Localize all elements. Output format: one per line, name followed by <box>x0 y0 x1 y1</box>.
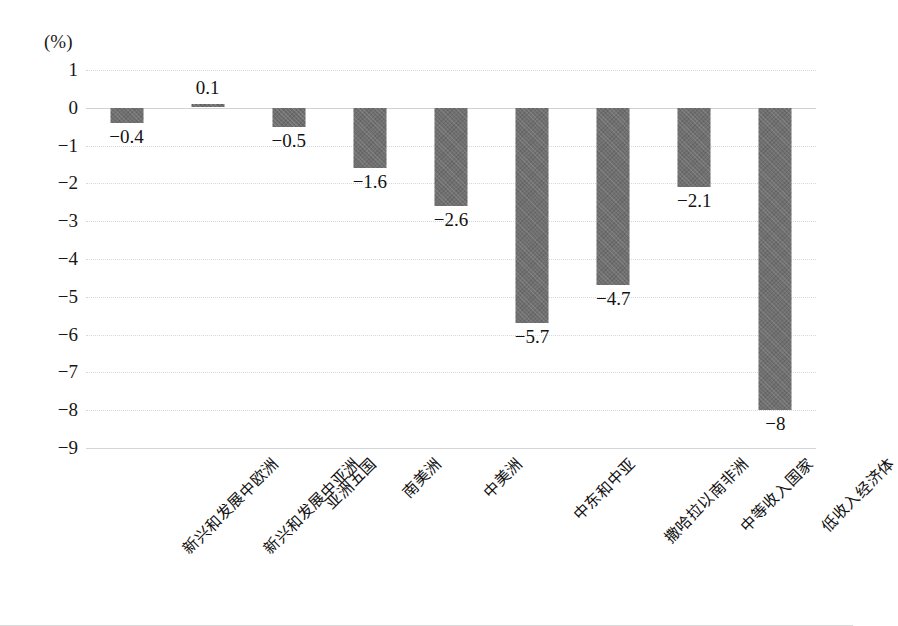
x-category-label: 南美洲 <box>396 452 445 501</box>
bar[interactable] <box>516 108 549 323</box>
bar-value-label: −5.7 <box>515 326 549 348</box>
bar-slot: −2.6 <box>410 70 491 448</box>
bar-slot: −1.6 <box>329 70 410 448</box>
y-axis-tick-labels: 10−1−2−3−4−5−6−7−8−9 <box>30 70 78 448</box>
bar[interactable] <box>353 108 386 168</box>
y-tick-label: −5 <box>32 286 78 308</box>
y-tick-label: −4 <box>32 248 78 270</box>
bar[interactable] <box>759 108 792 410</box>
bar-value-label: −2.6 <box>434 209 468 231</box>
bar-value-label: 0.1 <box>196 77 220 99</box>
bar-slot: −5.7 <box>492 70 573 448</box>
bar-slot: −0.4 <box>86 70 167 448</box>
bar-value-label: −0.4 <box>109 126 143 148</box>
x-category-label: 撒哈拉以南非洲 <box>658 452 753 547</box>
y-tick-label: −7 <box>32 361 78 383</box>
y-tick-label: 0 <box>32 97 78 119</box>
y-tick-label: −1 <box>32 135 78 157</box>
y-tick-label: −3 <box>32 210 78 232</box>
x-category-label: 低收入经济体 <box>816 452 898 535</box>
bar[interactable] <box>434 108 467 206</box>
y-tick-label: −2 <box>32 172 78 194</box>
bar-slot: −0.5 <box>248 70 329 448</box>
y-tick-label: −9 <box>32 437 78 459</box>
x-axis-category-labels: 新兴和发展中欧洲新兴和发展中亚洲亚洲五国南美洲中美洲中东和中亚撒哈拉以南非洲中等… <box>86 452 816 626</box>
bar-value-label: −8 <box>765 413 785 435</box>
y-tick-label: 1 <box>32 59 78 81</box>
bar-slot: 0.1 <box>167 70 248 448</box>
bar-value-label: −4.7 <box>596 288 630 310</box>
gridline <box>86 448 816 449</box>
y-tick-label: −6 <box>32 324 78 346</box>
bar-slot: −8 <box>735 70 816 448</box>
bar[interactable] <box>110 108 143 123</box>
y-tick-label: −8 <box>32 399 78 421</box>
x-category-label: 中美洲 <box>477 452 526 501</box>
bar[interactable] <box>272 108 305 127</box>
bar[interactable] <box>678 108 711 187</box>
bar-slot: −2.1 <box>654 70 735 448</box>
y-axis-unit-label: (%) <box>44 31 72 53</box>
bar-value-label: −0.5 <box>272 130 306 152</box>
bar[interactable] <box>191 104 224 107</box>
bar[interactable] <box>597 108 630 286</box>
x-category-label: 中东和中亚 <box>568 452 640 524</box>
bar-value-label: −2.1 <box>677 190 711 212</box>
bar-slot: −4.7 <box>573 70 654 448</box>
bar-value-label: −1.6 <box>353 171 387 193</box>
plot-area: −0.40.1−0.5−1.6−2.6−5.7−4.7−2.1−8 <box>86 70 816 448</box>
